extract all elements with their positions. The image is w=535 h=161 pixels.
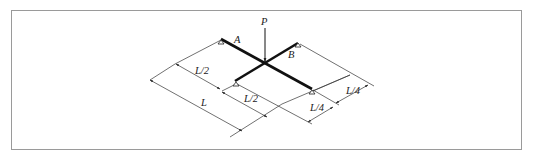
crossed-beam-diagram: P A B L/2 L L/2 L/4 L/4 bbox=[0, 0, 535, 161]
support-label-a: A bbox=[233, 34, 241, 45]
dimension-lines bbox=[150, 64, 368, 131]
dim-label-l2-upper: L/2 bbox=[194, 65, 210, 76]
dim-label-l4-lower: L/4 bbox=[309, 102, 325, 113]
dim-label-l4-upper: L/4 bbox=[345, 85, 361, 96]
load-label-p: P bbox=[260, 16, 268, 27]
support-left-icon bbox=[233, 82, 239, 86]
support-label-b: B bbox=[288, 49, 295, 60]
dim-label-l2-lower: L/2 bbox=[243, 93, 259, 104]
dim-label-l-total: L bbox=[200, 97, 207, 108]
extension-lines bbox=[150, 40, 374, 137]
